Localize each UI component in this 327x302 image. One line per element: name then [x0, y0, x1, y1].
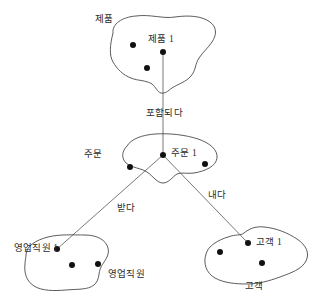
relationship-label-contains: 포함되다 — [146, 108, 183, 118]
instance-dot — [127, 164, 133, 170]
customer-set-boundary — [205, 227, 308, 284]
instance-dot — [217, 249, 223, 255]
set-label-customer: 고객 — [245, 281, 263, 291]
order-set-boundary — [123, 134, 217, 183]
instance-dot — [144, 65, 150, 71]
diagram-canvas — [0, 0, 327, 302]
instance-label-customer-1: 고객 1 — [256, 237, 282, 247]
set-label-order: 주문 — [84, 149, 102, 159]
instance-dot-product-1 — [160, 49, 166, 55]
instance-dot — [130, 42, 136, 48]
instance-label-order-1: 주문 1 — [171, 148, 197, 158]
instance-dot-order-1 — [160, 152, 166, 158]
instance-label-salesperson-1: 영업직원 1 — [14, 243, 58, 253]
instance-dot — [95, 261, 101, 267]
instance-dot — [259, 260, 265, 266]
set-label-salesperson: 영업직원 — [108, 269, 145, 279]
er-set-diagram: 제품 제품 1 포함되다 주문 주문 1 받다 내다 영업직원 1 영업직원 고… — [0, 0, 327, 302]
relationship-label-issues: 내다 — [208, 190, 226, 200]
instance-dot — [69, 262, 75, 268]
instance-label-product-1: 제품 1 — [148, 34, 174, 44]
set-label-product: 제품 — [95, 14, 113, 24]
relationship-line-issues — [163, 155, 248, 243]
relationship-label-receives: 받다 — [117, 203, 135, 213]
product-instance-dots — [130, 42, 166, 71]
instance-dot — [202, 161, 208, 167]
instance-dot-customer-1 — [245, 240, 251, 246]
salesperson-instance-dots — [54, 246, 101, 268]
